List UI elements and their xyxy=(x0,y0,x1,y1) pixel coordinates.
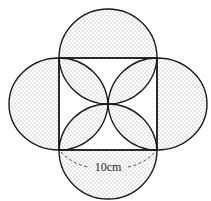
petal-bottom-left xyxy=(59,104,108,150)
petal-bottom-right xyxy=(108,104,157,150)
geometry-diagram: 10cm xyxy=(0,0,211,201)
petal-top-left xyxy=(59,58,108,104)
dimension-label: 10cm xyxy=(95,160,122,174)
bottom-semicircle xyxy=(59,150,157,199)
left-semi-ellipse xyxy=(9,58,59,150)
top-semicircle xyxy=(59,9,157,58)
petal-top-right xyxy=(108,58,157,104)
four-petal-rosette xyxy=(59,58,157,150)
right-semi-ellipse xyxy=(157,58,207,150)
